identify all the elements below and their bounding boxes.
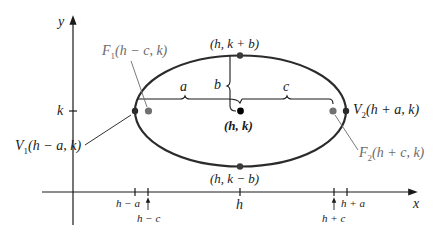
vertex-left-coords: (h − a, k) [28,138,81,153]
b-label: b [214,78,221,92]
c-label: c [283,80,289,94]
vertex-left-letter: V [15,138,24,153]
vertex-left-label: V1(h − a, k) [15,139,81,156]
x-tick-h-plus-a-label: h + a [341,198,365,209]
x-tick-h-label: h [236,198,243,212]
vertex-left-point [132,108,138,114]
x-tick-h-minus-c-label: h − c [137,213,160,224]
vertex-right-label: V2(h + a, k) [353,103,419,120]
x-axis-label: x [413,197,419,211]
focus-right-label: F2(h + c, k) [359,146,424,163]
top-vertex-label: (h, k + b) [210,37,259,50]
bottom-vertex-point [237,163,243,169]
leader-f1 [131,61,147,107]
focus-left-label: F1(h − c, k) [102,44,167,61]
bottom-vertex-label: (h, k − b) [210,172,259,185]
center-point [237,108,244,115]
b-brace [227,56,236,111]
vertex-right-letter: V [353,102,362,117]
focus-right-letter: F [359,145,368,160]
c-brace [242,96,333,104]
x-tick-h-minus-a-label: h − a [116,198,140,209]
focus-right-coords: (h + c, k) [372,145,424,160]
focus-left-letter: F [102,43,111,58]
y-axis-label: y [58,15,64,29]
vertex-right-point [343,108,349,114]
x-tick-h-plus-c-label: h + c [322,213,345,224]
a-brace [138,96,228,99]
center-label: (h, k) [224,119,253,132]
a-label: a [180,80,187,94]
y-tick-k-label: k [57,104,63,118]
focus-right-point [329,107,336,114]
top-vertex-point [237,52,243,58]
focus-left-coords: (h − c, k) [115,43,167,58]
leader-v1 [85,115,131,145]
vertex-right-coords: (h + a, k) [366,102,419,117]
focus-left-point [145,107,152,114]
